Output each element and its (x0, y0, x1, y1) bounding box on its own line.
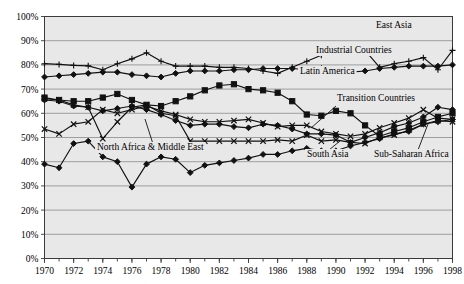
data-point (173, 99, 178, 104)
data-point (115, 91, 120, 96)
data-point (188, 94, 193, 99)
data-point (231, 82, 236, 87)
data-point (275, 90, 280, 95)
y-tick-label: 100% (16, 12, 38, 22)
data-point (246, 87, 251, 92)
series-label-text: South Asia (307, 149, 349, 159)
series-label-text: Industrial Countries (316, 45, 392, 55)
series-label-north-africa-middle-east: North Africa & Middle East (95, 142, 206, 153)
x-axis-tick-labels: 1970197219741976197819801982198419861988… (35, 266, 462, 276)
series-label-text: Transition Countries (337, 93, 415, 103)
y-tick-label: 0% (26, 254, 39, 264)
data-point (290, 99, 295, 104)
data-point (362, 123, 367, 128)
y-tick-label: 40% (21, 157, 39, 167)
y-tick-label: 70% (21, 85, 39, 95)
data-point (100, 95, 105, 100)
y-tick-label: 60% (21, 109, 39, 119)
x-tick-label: 1992 (356, 266, 375, 276)
x-tick-label: 1990 (326, 266, 345, 276)
data-point (202, 88, 207, 93)
series-label-text: East Asia (376, 20, 412, 30)
series-label-latin-america: Latin America (298, 66, 357, 77)
x-tick-label: 1980 (181, 266, 200, 276)
data-point (348, 111, 353, 116)
y-tick-label: 80% (21, 60, 39, 70)
chart-container: 0%10%20%30%40%50%60%70%80%90%100% 197019… (0, 0, 464, 284)
data-point (217, 83, 222, 88)
x-tick-label: 1974 (93, 266, 112, 276)
data-point (304, 112, 309, 117)
x-tick-label: 1986 (268, 266, 287, 276)
y-tick-marks (41, 17, 45, 259)
y-tick-label: 20% (21, 206, 39, 216)
x-tick-label: 1984 (239, 266, 258, 276)
y-axis-tick-labels: 0%10%20%30%40%50%60%70%80%90%100% (16, 12, 38, 264)
y-tick-label: 90% (21, 36, 39, 46)
x-tick-label: 1988 (297, 266, 316, 276)
series-label-industrial-countries: Industrial Countries (314, 45, 394, 56)
series-label-text: North Africa & Middle East (97, 142, 204, 152)
data-point (333, 108, 338, 113)
line-chart: 0%10%20%30%40%50%60%70%80%90%100% 197019… (0, 0, 464, 284)
x-tick-label: 1976 (122, 266, 141, 276)
x-tick-label: 1970 (35, 266, 54, 276)
data-point (260, 88, 265, 93)
series-label-transition-countries: Transition Countries (335, 93, 417, 104)
y-tick-label: 50% (21, 133, 39, 143)
y-tick-label: 30% (21, 181, 39, 191)
x-tick-label: 1996 (414, 266, 433, 276)
series-label-sub-saharan-africa: Sub-Saharan Africa (372, 149, 451, 160)
data-point (86, 99, 91, 104)
x-tick-label: 1998 (443, 266, 462, 276)
x-tick-label: 1982 (210, 266, 229, 276)
series-label-east-asia: East Asia (374, 20, 414, 31)
x-tick-label: 1972 (64, 266, 83, 276)
x-tick-label: 1978 (152, 266, 171, 276)
series-label-text: Sub-Saharan Africa (374, 149, 449, 159)
data-point (129, 97, 134, 102)
data-point (158, 103, 163, 108)
x-tick-marks (45, 259, 453, 264)
series-label-text: Latin America (300, 66, 355, 76)
series-label-south-asia: South Asia (305, 149, 350, 160)
y-tick-label: 10% (21, 230, 39, 240)
x-tick-label: 1994 (385, 266, 404, 276)
